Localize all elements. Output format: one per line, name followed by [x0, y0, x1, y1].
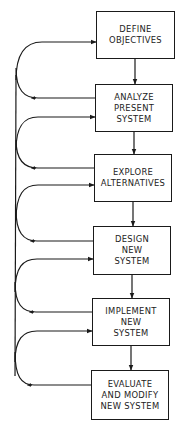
step-label: IMPLEMENT	[105, 306, 156, 317]
step-define-objectives: DEFINE OBJECTIVES	[96, 11, 175, 59]
step-label: EXPLORE	[101, 167, 165, 178]
feedback-from-evaluate	[15, 352, 91, 385]
feedback-bus-line	[15, 75, 16, 376]
step-label: NEW	[114, 245, 149, 256]
step-implement-new-system: IMPLEMENT NEW SYSTEM	[92, 298, 170, 346]
feedback-into-explore	[16, 185, 94, 220]
feedback-from-analyze	[16, 68, 95, 98]
step-label: PRESENT	[114, 103, 154, 114]
step-label: NEW SYSTEM	[101, 401, 160, 412]
step-design-new-system: DESIGN NEW SYSTEM	[93, 226, 171, 275]
feedback-into-implement	[15, 331, 92, 362]
feedback-from-implement	[15, 282, 92, 312]
step-label: SYSTEM	[114, 256, 149, 267]
systems-development-cycle-diagram: DEFINE OBJECTIVES ANALYZE PRESENT SYSTEM…	[0, 0, 185, 436]
feedback-into-analyze	[16, 117, 95, 150]
step-label: SYSTEM	[105, 328, 156, 339]
feedback-into-design	[15, 259, 93, 292]
step-label: ANALYZE	[114, 92, 154, 103]
step-label: SYSTEM	[114, 114, 154, 125]
step-label: OBJECTIVES	[109, 35, 162, 46]
step-label: EVALUATE	[101, 379, 160, 390]
feedback-from-design	[16, 210, 93, 241]
step-label: AND MODIFY	[101, 390, 160, 401]
step-evaluate-and-modify: EVALUATE AND MODIFY NEW SYSTEM	[91, 370, 169, 420]
feedback-from-explore	[16, 140, 94, 168]
step-analyze-present-system: ANALYZE PRESENT SYSTEM	[95, 84, 173, 132]
step-label: DESIGN	[114, 234, 149, 245]
step-label: ALTERNATIVES	[101, 178, 165, 189]
step-label: NEW	[105, 317, 156, 328]
step-label: DEFINE	[109, 24, 162, 35]
feedback-into-define	[16, 42, 96, 80]
step-explore-alternatives: EXPLORE ALTERNATIVES	[94, 154, 172, 202]
